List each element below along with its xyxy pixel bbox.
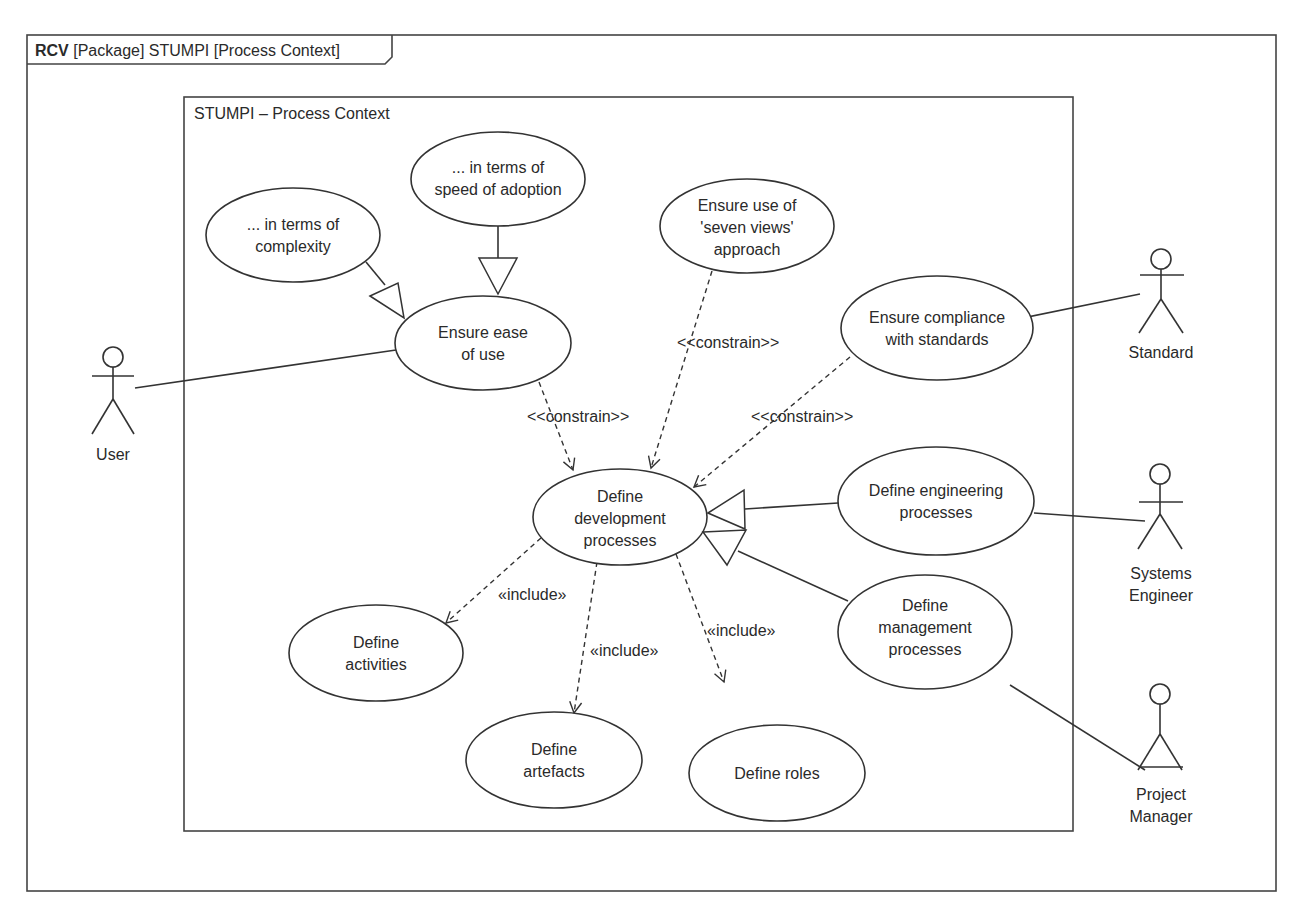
system-boundary-label: STUMPI – Process Context [194, 105, 390, 122]
stick-figure-icon [92, 347, 134, 434]
stereotype-constrain-ease: <<constrain>> [527, 408, 629, 425]
stereotype-include-activities: «include» [498, 586, 567, 603]
actor-project-manager[interactable]: ProjectManager [1129, 684, 1193, 825]
dependency-include-activities [446, 538, 541, 623]
diagram-frame [27, 35, 1276, 891]
frame-title: RCV [Package] STUMPI [Process Context] [35, 42, 340, 59]
use-case-ensure-compliance[interactable]: Ensure compliancewith standards [841, 276, 1033, 380]
generalization-arrowhead-management [703, 530, 746, 565]
stick-figure-icon [1138, 684, 1183, 770]
generalization-engineering [745, 503, 838, 509]
association-manager-management [1010, 685, 1145, 770]
stereotype-include-roles: «include» [707, 622, 776, 639]
use-case-complexity[interactable]: ... in terms ofcomplexity [206, 188, 380, 282]
use-case-define-management-processes[interactable]: Definemanagementprocesses [838, 575, 1012, 689]
svg-text:Standard: Standard [1129, 344, 1194, 361]
generalization-arrowhead-speed [479, 258, 517, 294]
stereotype-constrain-views: <<constrain>> [677, 334, 779, 351]
svg-text:SystemsEngineer: SystemsEngineer [1129, 565, 1194, 604]
use-case-diagram: RCV [Package] STUMPI [Process Context] S… [0, 0, 1298, 920]
stick-figure-icon [1138, 464, 1183, 549]
use-case-ensure-ease-of-use[interactable]: Ensure easeof use [395, 296, 571, 390]
use-case-speed-of-adoption[interactable]: ... in terms ofspeed of adoption [411, 132, 585, 226]
svg-text:Define roles: Define roles [734, 765, 819, 782]
use-case-define-roles[interactable]: Define roles [689, 725, 865, 821]
use-case-define-artefacts[interactable]: Defineartefacts [466, 712, 642, 808]
generalization-arrowhead-engineering [708, 490, 745, 529]
generalization-arrowhead-complexity [370, 283, 404, 318]
dependency-include-roles [676, 554, 724, 682]
frame-title-keyword: RCV [35, 42, 69, 59]
use-case-define-activities[interactable]: Defineactivities [289, 605, 463, 701]
generalization-management [738, 551, 848, 601]
frame-title-rest: [Package] STUMPI [Process Context] [69, 42, 340, 59]
svg-text:ProjectManager: ProjectManager [1129, 786, 1193, 825]
dependency-constrain-views [651, 271, 712, 468]
stereotype-include-artefacts: «include» [590, 642, 659, 659]
svg-text:User: User [96, 446, 130, 463]
dependency-constrain-ease [539, 382, 573, 470]
association-user-ease [135, 350, 396, 388]
dependency-include-artefacts [574, 562, 597, 713]
actor-systems-engineer[interactable]: SystemsEngineer [1129, 464, 1194, 604]
generalization-complexity [366, 262, 385, 285]
actor-standard[interactable]: Standard [1129, 249, 1194, 361]
use-case-define-development-processes[interactable]: Definedevelopmentprocesses [533, 469, 707, 565]
association-engineer-engineering [1034, 513, 1145, 521]
use-case-define-engineering-processes[interactable]: Define engineeringprocesses [838, 447, 1034, 555]
use-case-seven-views[interactable]: Ensure use of'seven views'approach [660, 179, 834, 273]
stereotype-constrain-compliance: <<constrain>> [751, 408, 853, 425]
actor-user[interactable]: User [92, 347, 134, 463]
stick-figure-icon [1139, 249, 1184, 333]
